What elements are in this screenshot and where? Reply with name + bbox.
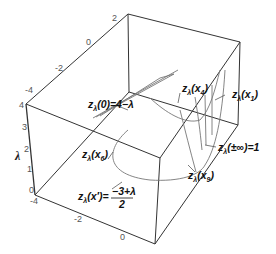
- annotation-x4: zλ(x4): [181, 82, 208, 96]
- annotation-xprime-den: 2: [118, 198, 125, 210]
- y-axis-ticks: -4 -2 0: [30, 196, 125, 242]
- z-tick: 4: [19, 100, 24, 110]
- z-axis-ticks: 4 3 2 1 0 λ: [14, 100, 34, 195]
- annotation-x1: zλ(x1): [231, 88, 258, 102]
- z-tick: 3: [22, 122, 27, 132]
- z-axis-label: λ: [14, 149, 21, 163]
- z-tick: 2: [24, 144, 29, 154]
- x-tick: 0: [86, 37, 91, 47]
- x-tick: -2: [55, 63, 63, 73]
- annotation-x6: zλ(x6): [81, 148, 108, 162]
- z-tick: 0: [29, 185, 34, 195]
- annotation-xprime-num: −3+λ: [112, 185, 136, 197]
- x-tick: 2: [112, 13, 117, 23]
- box-frame: [26, 14, 240, 244]
- x-tick: -4: [25, 85, 33, 95]
- plot-3d: 2 0 -2 -4 4 3 2 1 0 λ -4 -2 0 zλ(0)=4−λ …: [0, 0, 276, 254]
- x-axis-ticks: 2 0 -2 -4: [25, 13, 117, 95]
- annotation-x9: zλ(x9): [187, 169, 214, 183]
- y-tick: 0: [120, 232, 125, 242]
- y-tick: -4: [30, 196, 38, 206]
- annotation-z0: zλ(0)=4−λ: [87, 98, 134, 112]
- annotation-inf: zλ(±∞)=1: [217, 141, 260, 155]
- y-tick: -2: [74, 214, 82, 224]
- z-tick: 1: [27, 164, 32, 174]
- annotation-xprime: zλ(x′)=: [77, 190, 109, 204]
